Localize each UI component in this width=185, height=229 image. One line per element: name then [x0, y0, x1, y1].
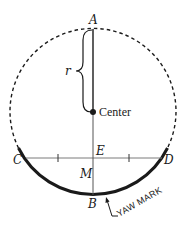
label-b: B: [87, 197, 97, 211]
label-m: M: [79, 167, 93, 181]
label-d: D: [163, 153, 174, 167]
yaw-mark-diagram: A r Center E C D M B YAW MARK: [0, 0, 185, 229]
radius-brace: [76, 30, 92, 112]
label-c: C: [13, 153, 22, 167]
label-e: E: [95, 144, 105, 158]
label-a: A: [88, 13, 98, 27]
label-r: r: [65, 64, 72, 78]
label-center: Center: [99, 105, 131, 119]
arrow-head-icon: [106, 197, 110, 203]
